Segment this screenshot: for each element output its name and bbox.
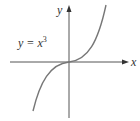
x-axis-label: x bbox=[130, 55, 137, 69]
x-axis-arrow-icon bbox=[122, 60, 129, 65]
equation-base: y = x bbox=[17, 36, 43, 50]
equation-exponent: 3 bbox=[43, 35, 47, 44]
cubic-function-graph: x y y = x3 bbox=[0, 0, 140, 121]
y-axis-arrow-icon bbox=[67, 5, 72, 12]
equation-label: y = x3 bbox=[17, 35, 47, 50]
y-axis-label: y bbox=[56, 3, 63, 17]
